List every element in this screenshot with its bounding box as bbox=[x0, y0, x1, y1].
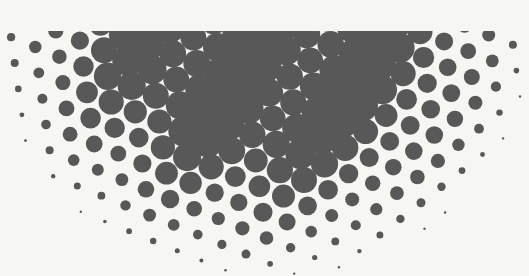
halftone-dot bbox=[360, 148, 379, 167]
halftone-dot bbox=[110, 146, 126, 162]
halftone-dot bbox=[29, 41, 41, 53]
halftone-dot bbox=[173, 143, 201, 171]
halftone-dot bbox=[92, 164, 104, 176]
halftone-dot bbox=[244, 149, 268, 173]
halftone-dot bbox=[365, 176, 380, 191]
halftone-dot bbox=[159, 40, 186, 67]
halftone-dot bbox=[217, 240, 226, 249]
halftone-dot bbox=[298, 196, 317, 215]
halftone-dot bbox=[255, 79, 283, 107]
halftone-dot bbox=[150, 238, 156, 244]
halftone-dot bbox=[496, 109, 502, 115]
halftone-dot bbox=[175, 248, 180, 253]
halftone-dot bbox=[155, 162, 178, 185]
halftone-dot bbox=[384, 33, 414, 63]
halftone-dot bbox=[312, 255, 317, 260]
halftone-dot bbox=[206, 184, 224, 202]
halftone-dot bbox=[439, 58, 457, 76]
halftone-dot bbox=[491, 82, 501, 92]
halftone-dot bbox=[410, 170, 425, 185]
halftone-dot bbox=[339, 164, 358, 183]
halftone-dot bbox=[375, 104, 398, 127]
halftone-dot bbox=[116, 173, 129, 186]
halftone-dot bbox=[460, 43, 476, 59]
halftone-dot bbox=[431, 154, 445, 168]
halftone-dot bbox=[120, 200, 130, 210]
halftone-dot bbox=[260, 106, 286, 132]
halftone-dot bbox=[502, 137, 504, 139]
halftone-dot bbox=[118, 72, 146, 100]
halftone-dot bbox=[421, 100, 440, 119]
halftone-dot bbox=[279, 213, 296, 230]
halftone-dot bbox=[224, 269, 227, 272]
halftone-dot bbox=[390, 186, 404, 200]
halftone-dot bbox=[370, 203, 382, 215]
halftone-dot bbox=[37, 94, 47, 104]
halftone-dot bbox=[143, 209, 156, 222]
halftone-dot bbox=[385, 159, 402, 176]
halftone-dot bbox=[124, 100, 147, 123]
halftone-dot bbox=[63, 127, 78, 142]
halftone-dot bbox=[442, 84, 460, 102]
halftone-dot bbox=[297, 48, 323, 74]
halftone-dot bbox=[286, 243, 295, 252]
halftone-dot bbox=[94, 62, 121, 89]
halftone-dot bbox=[51, 174, 55, 178]
halftone-dot bbox=[509, 41, 517, 49]
halftone-dot bbox=[105, 118, 125, 138]
halftone-dot bbox=[80, 211, 82, 213]
halftone-dot bbox=[468, 96, 482, 110]
halftone-dot bbox=[98, 192, 106, 200]
halftone-dot bbox=[444, 211, 446, 213]
halftone-dot bbox=[351, 220, 361, 230]
halftone-dot bbox=[68, 154, 80, 166]
halftone-dot bbox=[20, 112, 25, 117]
top-blank-strip bbox=[0, 0, 529, 31]
halftone-dot bbox=[345, 192, 359, 206]
halftone-dot bbox=[168, 219, 180, 231]
halftone-dot bbox=[80, 108, 101, 129]
halftone-dot bbox=[138, 181, 155, 198]
halftone-dot bbox=[143, 83, 169, 109]
halftone-dot bbox=[452, 139, 464, 151]
halftone-dot bbox=[230, 194, 247, 211]
halftone-dot bbox=[423, 228, 425, 230]
halftone-dot bbox=[413, 47, 434, 68]
halftone-dot bbox=[133, 154, 151, 172]
halftone-dot bbox=[103, 220, 107, 224]
halftone-dot bbox=[396, 89, 417, 110]
halftone-dot bbox=[480, 152, 485, 157]
halftone-dot bbox=[161, 190, 179, 208]
halftone-dot bbox=[486, 55, 499, 68]
halftone-dot bbox=[437, 183, 445, 191]
halftone-dot bbox=[380, 132, 399, 151]
halftone-dot bbox=[186, 201, 202, 217]
halftone-dot bbox=[242, 250, 251, 259]
halftone-dot bbox=[405, 142, 423, 160]
halftone-dot bbox=[474, 124, 484, 134]
halftone-dot bbox=[325, 209, 338, 222]
halftone-dot bbox=[74, 182, 81, 189]
halftone-dot bbox=[76, 81, 98, 103]
halftone-dot bbox=[193, 230, 203, 240]
halftone-dot bbox=[464, 69, 480, 85]
halftone-dot bbox=[401, 116, 420, 135]
halftone-dot bbox=[179, 172, 201, 194]
halftone-dot bbox=[417, 198, 426, 207]
halftone-dot bbox=[55, 75, 70, 90]
halftone-dot bbox=[59, 101, 75, 117]
halftone-dot bbox=[212, 212, 225, 225]
halftone-dot bbox=[311, 150, 338, 177]
halftone-dot bbox=[447, 111, 463, 127]
halftone-dot bbox=[271, 36, 300, 65]
halftone-dot bbox=[331, 238, 339, 246]
halftone-dot bbox=[11, 59, 19, 67]
halftone-dot bbox=[199, 154, 224, 179]
halftone-dot bbox=[514, 68, 520, 74]
halftone-dot bbox=[368, 75, 397, 104]
halftone-dot bbox=[426, 126, 444, 144]
halftone-dot bbox=[418, 74, 437, 93]
halftone-dot bbox=[46, 146, 54, 154]
halftone-dot bbox=[254, 203, 273, 222]
halftone-dot bbox=[293, 272, 295, 274]
